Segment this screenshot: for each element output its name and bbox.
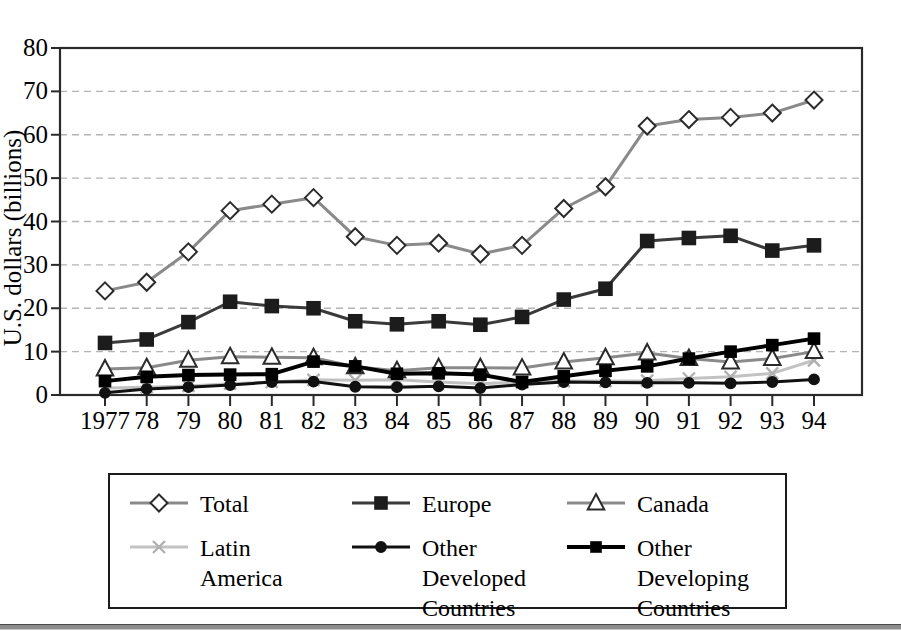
- y-tick-label: 20: [2, 295, 48, 320]
- square-marker-icon: [642, 361, 653, 372]
- square-marker-icon: [266, 369, 277, 380]
- square-marker-icon: [349, 315, 362, 328]
- gridlines: [60, 91, 862, 351]
- square-marker-icon: [99, 336, 112, 349]
- circle-marker-icon: [183, 382, 193, 392]
- legend-label: Other Developing Countries: [627, 533, 749, 623]
- diamond-marker-icon: [263, 196, 280, 213]
- square-marker-icon: [141, 371, 152, 382]
- legend-label: Total: [190, 489, 249, 519]
- square-marker-icon: [100, 376, 111, 387]
- square-marker-icon: [265, 300, 278, 313]
- diamond-marker-icon: [151, 495, 168, 512]
- square-marker-icon: [766, 244, 779, 257]
- diamond-marker-icon: [722, 109, 739, 126]
- circle-marker-icon: [684, 378, 694, 388]
- diamond-marker-icon: [639, 118, 656, 135]
- series-line: [105, 100, 814, 291]
- circle-marker-icon: [100, 388, 110, 398]
- circle-marker-icon: [142, 384, 152, 394]
- square-marker-icon: [350, 361, 361, 372]
- square-marker-icon: [517, 376, 528, 387]
- diamond-marker-icon: [388, 237, 405, 254]
- diamond-marker-icon: [388, 237, 405, 254]
- legend-item[interactable]: Europe: [350, 489, 491, 519]
- legend-label: Latin America: [190, 533, 283, 593]
- legend-item[interactable]: Canada: [565, 489, 709, 519]
- square-marker-icon: [558, 371, 569, 382]
- circle-marker-icon: [350, 382, 360, 392]
- square-marker-icon: [182, 316, 195, 329]
- square-marker-icon: [808, 239, 821, 252]
- legend-item[interactable]: Other Developing Countries: [565, 533, 749, 623]
- square-marker-icon: [474, 318, 487, 331]
- circle-marker-icon: [642, 378, 652, 388]
- square-marker-icon: [375, 497, 387, 509]
- cross-marker-icon: [128, 535, 190, 559]
- triangle-marker-icon: [806, 343, 823, 358]
- diamond-marker-icon: [597, 178, 614, 195]
- square-marker-icon: [308, 356, 319, 367]
- square-marker-icon: [391, 368, 402, 379]
- legend-label: Other Developed Countries: [412, 533, 526, 623]
- circle-marker-icon: [308, 376, 318, 386]
- square-marker-icon: [516, 310, 529, 323]
- y-tick-label: 10: [2, 339, 48, 364]
- triangle-marker-icon: [806, 343, 823, 358]
- square-marker-icon: [516, 310, 529, 323]
- square-marker-icon: [433, 368, 444, 379]
- y-tick-label: 80: [2, 35, 48, 60]
- y-tick-label: 60: [2, 122, 48, 147]
- circle-marker-icon: [767, 377, 777, 387]
- square-marker-icon: [683, 353, 694, 364]
- circle-marker-icon: [809, 374, 819, 384]
- square-marker-icon: [517, 376, 528, 387]
- diamond-marker-icon: [806, 92, 823, 109]
- square-marker-icon: [433, 368, 444, 379]
- circle-marker-icon: [433, 381, 443, 391]
- diamond-marker-icon: [639, 118, 656, 135]
- square-marker-icon: [474, 318, 487, 331]
- y-tick-label: 70: [2, 78, 48, 103]
- square-marker-icon: [375, 497, 387, 509]
- square-marker-icon: [565, 535, 627, 559]
- circle-marker-icon: [475, 383, 485, 393]
- circle-marker-icon: [600, 377, 610, 387]
- legend-item[interactable]: Latin America: [128, 533, 283, 593]
- square-marker-icon: [141, 371, 152, 382]
- square-marker-icon: [265, 300, 278, 313]
- square-marker-icon: [140, 333, 153, 346]
- square-marker-icon: [391, 368, 402, 379]
- circle-marker-icon: [225, 380, 235, 390]
- legend-label: Europe: [412, 489, 491, 519]
- square-marker-icon: [225, 369, 236, 380]
- circle-marker-icon: [142, 384, 152, 394]
- square-marker-icon: [350, 491, 412, 515]
- diamond-marker-icon: [472, 246, 489, 263]
- diamond-marker-icon: [764, 105, 781, 122]
- square-marker-icon: [349, 315, 362, 328]
- square-marker-icon: [808, 239, 821, 252]
- square-marker-icon: [682, 231, 695, 244]
- legend-item[interactable]: Total: [128, 489, 249, 519]
- square-marker-icon: [390, 318, 403, 331]
- square-marker-icon: [100, 376, 111, 387]
- diamond-marker-icon: [97, 282, 114, 299]
- square-marker-icon: [809, 333, 820, 344]
- diamond-marker-icon: [680, 111, 697, 128]
- square-marker-icon: [307, 302, 320, 315]
- square-marker-icon: [475, 369, 486, 380]
- circle-marker-icon: [725, 378, 735, 388]
- square-marker-icon: [767, 340, 778, 351]
- circle-marker-icon: [308, 376, 318, 386]
- legend-item[interactable]: Other Developed Countries: [350, 533, 526, 623]
- circle-marker-icon: [767, 377, 777, 387]
- square-marker-icon: [225, 369, 236, 380]
- square-marker-icon: [266, 369, 277, 380]
- triangle-marker-icon: [565, 491, 627, 515]
- square-marker-icon: [599, 282, 612, 295]
- square-marker-icon: [432, 315, 445, 328]
- y-tick-label: 50: [2, 165, 48, 190]
- square-marker-icon: [641, 235, 654, 248]
- square-marker-icon: [557, 293, 570, 306]
